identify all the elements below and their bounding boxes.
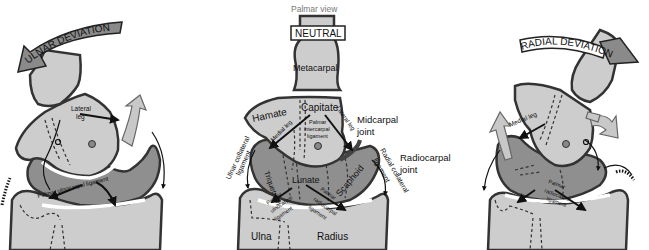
palmar-intercarpal-label-3: ligament: [307, 133, 328, 139]
radius-label: Radius: [317, 231, 348, 242]
midcarpal-joint-label-2: joint: [356, 126, 375, 137]
wrist-deviation-diagram: ULNAR DEVIATION Lateral leg Palmar ulnoc…: [0, 0, 649, 250]
metacarpal-label: Metacarpal: [293, 63, 338, 73]
palmar-view-label: Palmar view: [291, 4, 338, 14]
radiocarpal-joint-label-2: joint: [399, 164, 418, 175]
panel-neutral: Palmar view Ulna Radius Metacarpal NEUTR…: [225, 4, 451, 250]
axis-dot: [563, 141, 570, 148]
panel-ulnar-deviation: ULNAR DEVIATION Lateral leg Palmar ulnoc…: [2, 22, 164, 250]
palmar-intercarpal-label-2: intercarpal: [304, 126, 330, 132]
lateral-leg-label-2: leg: [76, 113, 85, 121]
axis-dot: [315, 143, 322, 150]
capitate-label: Capitate: [301, 102, 339, 113]
stretched-ligament-icon: [2, 178, 10, 205]
stretched-ligament-icon: [616, 171, 634, 180]
ulna-label: Ulna: [251, 231, 272, 242]
lunate-label: Lunate: [292, 175, 320, 185]
palmar-intercarpal-label-1: Palmar: [309, 119, 327, 125]
midcarpal-joint-label-1: Midcarpal: [357, 114, 398, 125]
neutral-title: NEUTRAL: [295, 28, 342, 39]
rotation-arrow: [122, 95, 146, 146]
lateral-leg-label-1: Lateral: [71, 105, 91, 112]
radiocarpal-joint-label-1: Radiocarpal: [400, 152, 451, 163]
panel-radial-deviation: RADIAL DEVIATION Medial leg Palmar radio…: [484, 30, 638, 250]
axis-dot: [89, 141, 96, 148]
